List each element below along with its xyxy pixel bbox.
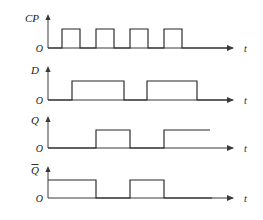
time-axis-label-cp: t xyxy=(244,43,247,54)
signal-trace-qbar xyxy=(48,180,212,198)
time-axis-label-q: t xyxy=(244,143,247,154)
time-axis-label-qbar: t xyxy=(244,193,247,204)
origin-label-qbar: O xyxy=(36,193,43,204)
vertical-axis-arrow-cp xyxy=(45,14,50,20)
vertical-axis-arrow-d xyxy=(45,66,50,72)
timing-diagram-figure: CPOtDOtQOtQOt xyxy=(0,0,263,220)
origin-label-cp: O xyxy=(36,43,43,54)
timing-diagram-canvas: CPOtDOtQOtQOt xyxy=(0,0,263,220)
signal-trace-d xyxy=(48,81,228,100)
origin-label-q: O xyxy=(36,143,43,154)
time-axis-label-d: t xyxy=(244,95,247,106)
vertical-axis-arrow-qbar xyxy=(45,166,50,172)
origin-label-d: O xyxy=(36,95,43,106)
waveform-row-qbar: QOt xyxy=(31,164,247,204)
waveform-row-cp: CPOt xyxy=(25,12,247,54)
signal-trace-q xyxy=(48,130,210,148)
signal-label-cp: CP xyxy=(25,12,39,24)
vertical-axis-arrow-q xyxy=(45,116,50,122)
signal-label-qbar: Q xyxy=(31,164,39,176)
waveform-row-q: QOt xyxy=(31,114,247,154)
waveform-row-d: DOt xyxy=(30,64,247,106)
signal-trace-cp xyxy=(48,29,228,48)
signal-label-d: D xyxy=(30,64,39,76)
waveform-rows: CPOtDOtQOtQOt xyxy=(25,12,247,204)
signal-label-q: Q xyxy=(31,114,39,126)
